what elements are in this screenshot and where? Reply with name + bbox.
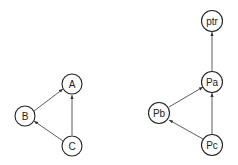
edge-pc-to-pb: [169, 120, 203, 139]
node-c: C: [62, 136, 82, 156]
node-label: ptr: [206, 16, 218, 27]
node-a: A: [62, 74, 82, 94]
right-graph: ptr Pa Pb Pc: [149, 11, 223, 156]
node-b: B: [15, 106, 35, 126]
node-label: Pc: [206, 140, 218, 151]
diagram-canvas: A B C ptr Pa Pb Pc: [0, 0, 238, 165]
node-label: Pb: [153, 108, 166, 119]
node-pc: Pc: [202, 135, 223, 156]
node-label: C: [68, 141, 75, 152]
node-ptr: ptr: [202, 11, 223, 32]
left-graph: A B C: [15, 74, 82, 156]
node-label: B: [22, 111, 29, 122]
node-label: Pa: [206, 77, 219, 88]
node-label: A: [69, 79, 76, 90]
edge-c-to-b: [34, 121, 63, 141]
edge-pb-to-pa: [169, 87, 203, 107]
node-pb: Pb: [149, 103, 170, 124]
node-pa: Pa: [202, 72, 223, 93]
edge-b-to-a: [34, 89, 63, 111]
